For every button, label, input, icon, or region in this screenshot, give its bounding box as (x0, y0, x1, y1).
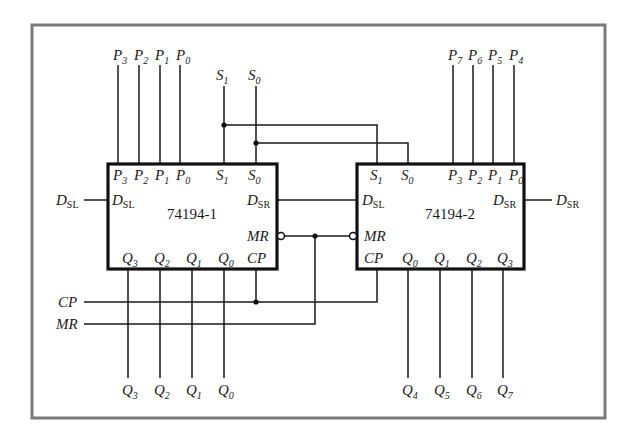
label-ext-q1: Q1 (186, 382, 202, 401)
label-ext-q2: Q2 (154, 382, 170, 401)
label-ext-s1: S1 (216, 67, 229, 86)
chip2-pin-mr: MR (363, 228, 386, 244)
mr-inversion-bubble-chip2 (350, 233, 357, 240)
label-ext-p1: P1 (154, 47, 169, 66)
label-ext-dsl: DSL (55, 192, 79, 210)
label-ext-q3: Q3 (122, 382, 138, 401)
wire-s1-to-chip2 (224, 125, 377, 164)
chip2-pin-cp: CP (364, 250, 383, 266)
chip2-name: 74194-2 (425, 206, 475, 222)
label-ext-mr: MR (55, 316, 78, 332)
label-ext-p3: P3 (112, 47, 127, 66)
label-ext-q6: Q6 (466, 382, 482, 401)
wire-s0-to-chip2 (256, 143, 408, 164)
label-ext-p2: P2 (133, 47, 148, 66)
chip1-pin-cp: CP (247, 250, 266, 266)
label-ext-cp: CP (58, 294, 77, 310)
label-ext-q0: Q0 (218, 382, 234, 401)
junction-s1 (221, 122, 226, 127)
chip1-pin-mr: MR (246, 228, 269, 244)
shift-register-cascade-diagram: 74194-1 74194-2 P3 P2 P1 P0 S1 S0 P7 P6 … (0, 0, 633, 430)
label-ext-p0: P0 (175, 47, 190, 66)
label-ext-p7: P7 (447, 47, 463, 66)
label-ext-q4: Q4 (402, 382, 418, 401)
label-ext-s0: S0 (248, 67, 261, 86)
label-ext-p6: P6 (467, 47, 482, 66)
junction-s0 (253, 140, 258, 145)
chip1-name: 74194-1 (167, 206, 217, 222)
junction-mr (312, 233, 317, 238)
label-ext-p4: P4 (508, 47, 523, 66)
label-ext-q7: Q7 (497, 382, 514, 401)
label-ext-q5: Q5 (434, 382, 450, 401)
mr-inversion-bubble-chip1 (278, 233, 285, 240)
label-ext-dsr: DSR (555, 192, 579, 210)
junction-cp (253, 299, 258, 304)
label-ext-p5: P5 (487, 47, 502, 66)
